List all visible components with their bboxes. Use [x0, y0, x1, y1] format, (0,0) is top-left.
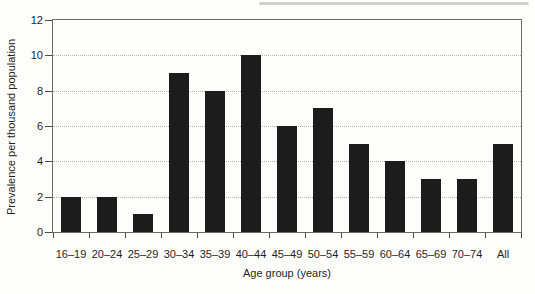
- y-tick-label-2: 2: [0, 191, 43, 204]
- bar-70–74: [457, 179, 477, 232]
- y-tick-8: [45, 91, 52, 92]
- x-tick-1: [89, 233, 90, 238]
- x-tick-0: [53, 233, 54, 238]
- x-tick-3: [161, 233, 162, 238]
- gridline-10: [53, 55, 521, 56]
- x-tick-7: [305, 233, 306, 238]
- bar-25–29: [133, 214, 153, 232]
- x-tick-5: [233, 233, 234, 238]
- y-tick-label-6: 6: [0, 120, 43, 133]
- y-tick-0: [45, 232, 52, 233]
- plot-area: [52, 19, 522, 233]
- y-tick-label-4: 4: [0, 155, 43, 168]
- bar-35–39: [205, 91, 225, 232]
- x-tick-12: [485, 233, 486, 238]
- y-tick-label-0: 0: [0, 226, 43, 239]
- x-tick-10: [413, 233, 414, 238]
- x-tick-2: [125, 233, 126, 238]
- y-tick-label-10: 10: [0, 49, 43, 62]
- scan-artifact-line: [259, 2, 529, 5]
- y-tick-6: [45, 126, 52, 127]
- bar-50–54: [313, 108, 333, 232]
- bar-60–64: [385, 161, 405, 232]
- bar-40–44: [241, 55, 261, 232]
- y-tick-label-12: 12: [0, 14, 43, 27]
- y-tick-label-8: 8: [0, 85, 43, 98]
- x-category-label-All: All: [479, 248, 527, 261]
- bar-20–24: [97, 197, 117, 232]
- x-tick-13: [521, 233, 522, 238]
- x-axis-title: Age group (years): [52, 267, 522, 280]
- x-tick-8: [341, 233, 342, 238]
- bar-45–49: [277, 126, 297, 232]
- bar-All: [493, 144, 513, 232]
- x-tick-11: [449, 233, 450, 238]
- x-tick-9: [377, 233, 378, 238]
- bar-30–34: [169, 73, 189, 232]
- y-tick-2: [45, 197, 52, 198]
- bar-16–19: [61, 197, 81, 232]
- y-tick-12: [45, 20, 52, 21]
- x-tick-4: [197, 233, 198, 238]
- gridline-8: [53, 91, 521, 92]
- x-tick-6: [269, 233, 270, 238]
- y-tick-10: [45, 55, 52, 56]
- y-tick-4: [45, 161, 52, 162]
- bar-55–59: [349, 144, 369, 232]
- bar-chart-figure: Prevalence per thousand population 02468…: [0, 0, 535, 294]
- bar-65–69: [421, 179, 441, 232]
